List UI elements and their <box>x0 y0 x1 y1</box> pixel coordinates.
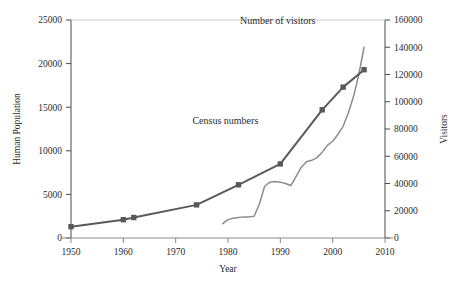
x-tick-label: 2010 <box>376 247 395 257</box>
census-data-point <box>68 224 73 229</box>
right-tick-label: 20000 <box>394 206 418 216</box>
census-data-point <box>236 182 241 187</box>
x-axis-title: Year <box>219 264 237 274</box>
chart-background <box>0 0 458 289</box>
right-tick-label: 80000 <box>394 124 418 134</box>
x-tick-label: 1980 <box>219 247 238 257</box>
x-tick-label: 1950 <box>62 247 81 257</box>
x-tick-label: 1960 <box>114 247 133 257</box>
x-tick-label: 2000 <box>323 247 342 257</box>
left-tick-label: 5000 <box>43 190 62 200</box>
left-tick-label: 0 <box>57 233 62 243</box>
x-tick-label: 1990 <box>271 247 290 257</box>
right-tick-label: 140000 <box>394 43 423 53</box>
left-tick-label: 20000 <box>38 59 62 69</box>
census-data-point <box>121 217 126 222</box>
census-series-label: Census numbers <box>192 115 258 126</box>
chart-container: 0500010000150002000025000 02000040000600… <box>0 0 458 289</box>
right-tick-label: 0 <box>394 233 399 243</box>
left-tick-label: 25000 <box>38 15 62 25</box>
census-data-point <box>278 161 283 166</box>
left-tick-label: 10000 <box>38 146 62 156</box>
census-data-point <box>131 215 136 220</box>
right-tick-label: 60000 <box>394 152 418 162</box>
right-tick-label: 100000 <box>394 97 423 107</box>
census-data-point <box>340 84 345 89</box>
visitors-series-label: Number of visitors <box>240 15 316 26</box>
census-data-point <box>194 202 199 207</box>
x-tick-label: 1970 <box>166 247 185 257</box>
census-data-point <box>361 67 366 72</box>
population-visitors-line-chart: 0500010000150002000025000 02000040000600… <box>0 0 458 289</box>
left-tick-label: 15000 <box>38 103 62 113</box>
right-tick-label: 40000 <box>394 179 418 189</box>
right-tick-label: 160000 <box>394 15 423 25</box>
left-axis-title: Human Population <box>12 93 22 165</box>
right-axis-title: Visitors <box>439 114 449 144</box>
right-tick-label: 120000 <box>394 70 423 80</box>
census-data-point <box>320 107 325 112</box>
